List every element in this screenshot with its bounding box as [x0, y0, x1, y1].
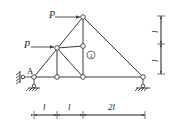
node-A-label: A — [27, 66, 34, 76]
dim-label-v2: l — [150, 59, 160, 62]
member-marker-1: 1 — [87, 51, 95, 59]
forces — [31, 17, 80, 47]
support-D — [135, 79, 150, 91]
member-diagonal — [57, 48, 83, 77]
node-C — [81, 75, 86, 80]
dim-label-h2: l — [68, 102, 71, 112]
member-horizontal-mid — [57, 46, 83, 48]
force-label-top: P — [48, 9, 55, 20]
dim-label-v1: l — [150, 30, 160, 33]
node-G — [81, 15, 86, 20]
truss-svg: P P A 1 l l 2l l l — [0, 0, 177, 130]
node-B — [55, 75, 60, 80]
force-label-mid: P — [23, 39, 30, 50]
truss-diagram: P P A 1 l l 2l l l — [0, 0, 177, 130]
dimension-horizontal — [34, 111, 145, 119]
node-D — [141, 75, 146, 80]
svg-text:1: 1 — [89, 52, 92, 59]
node-E — [55, 46, 60, 51]
dim-label-h3: 2l — [108, 102, 116, 112]
node-F — [81, 44, 86, 49]
dimension-vertical — [157, 16, 165, 74]
member-right-rafter — [83, 17, 143, 77]
dim-label-h1: l — [43, 102, 46, 112]
